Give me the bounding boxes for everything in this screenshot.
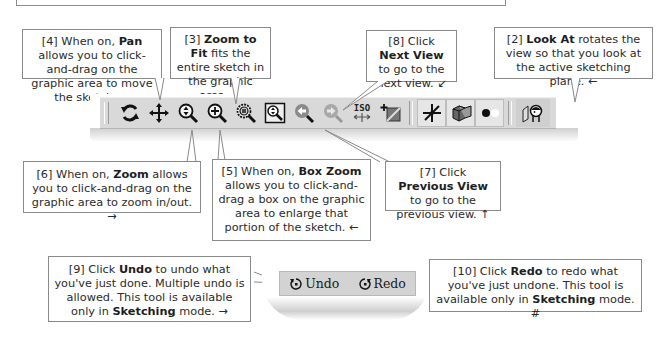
zoom-selection-button[interactable]: [260, 99, 289, 127]
previous-view-button[interactable]: [289, 99, 318, 127]
callout-keyword: Previous View: [398, 180, 488, 193]
callout-next-view: [8] Click Next View to go to the next vi…: [366, 30, 457, 82]
callout-keyword: Undo: [119, 263, 152, 276]
pan-button[interactable]: [144, 99, 173, 127]
arrow-right-icon: →: [107, 210, 116, 223]
callout-keyword: Look At: [526, 33, 574, 46]
callout-number: [4]: [42, 35, 58, 48]
arrow-left-icon: ←: [588, 75, 597, 88]
next-view-icon: [322, 102, 344, 124]
toolbar-grip[interactable]: [104, 102, 109, 124]
callout-number: [5]: [222, 165, 238, 178]
arrow-sw-icon: ↙: [437, 77, 446, 90]
sketch-axes-icon: [421, 102, 443, 124]
callout-text: When on,: [58, 35, 119, 48]
rotate-button[interactable]: [115, 99, 144, 127]
new-sketch-plane-icon: [380, 102, 402, 124]
callout-number: [2]: [507, 33, 527, 46]
callout-zoom: [6] When on, Zoom allows you to click-an…: [23, 161, 201, 213]
iso-view-icon: ISO: [350, 102, 374, 124]
zoom-to-fit-button[interactable]: [231, 99, 260, 127]
rotate-icon: [119, 102, 141, 124]
toolbar-strip: ISO: [100, 97, 556, 129]
undo-icon: [289, 277, 303, 291]
callout-text: to go to the next view.: [376, 63, 444, 90]
top-frame-border: [16, 0, 506, 6]
toolbar-separator: [508, 101, 512, 125]
arrow-up-icon: ↑: [480, 208, 489, 221]
undo-label: Undo: [305, 276, 339, 291]
toolbar-shadow: [90, 128, 578, 142]
callout-look-at: [2] Look At rotates the view so that you…: [494, 27, 653, 79]
points-toggle-button[interactable]: [475, 99, 504, 127]
sketch-view-button[interactable]: [417, 99, 446, 127]
redo-label: Redo: [374, 276, 406, 291]
callout-number: [7] Click: [420, 166, 467, 179]
look-at-icon: [521, 102, 545, 124]
iso-view-button[interactable]: ISO: [347, 99, 376, 127]
zoom-to-fit-icon: [235, 102, 257, 124]
svg-text:ISO: ISO: [353, 103, 370, 113]
previous-view-icon: [293, 102, 315, 124]
callout-text: When on,: [52, 168, 113, 181]
new-sketch-button[interactable]: [376, 99, 405, 127]
callout-number: [6]: [36, 168, 52, 181]
callout-number: [3]: [184, 33, 204, 46]
toolbar-separator: [409, 101, 413, 125]
callout-text: mode.: [176, 305, 219, 318]
redo-button[interactable]: Redo: [358, 276, 406, 291]
zoom-in-plus-icon: [206, 102, 228, 124]
callout-redo: [10] Click Redo to redo what you've just…: [429, 259, 642, 312]
next-view-button[interactable]: [318, 99, 347, 127]
callout-box-zoom: [5] When on, Box Zoom allows you to clic…: [212, 159, 371, 241]
callout-number: [8] Click: [388, 35, 435, 48]
callout-keyword: Sketching: [532, 293, 595, 306]
zoom-button[interactable]: [173, 99, 202, 127]
hash-mark-icon: #: [531, 307, 540, 320]
box-zoom-button[interactable]: [202, 99, 231, 127]
callout-keyword: Pan: [119, 35, 143, 48]
undo-button[interactable]: Undo: [289, 276, 339, 291]
arrow-right-icon: →: [218, 305, 227, 318]
callout-pan: [4] When on, Pan allows you to click-and…: [22, 29, 162, 79]
look-at-button[interactable]: [516, 99, 550, 127]
callout-keyword: Sketching: [112, 305, 175, 318]
callout-keyword: Box Zoom: [298, 165, 361, 178]
callout-undo: [9] Click Undo to undo what you've just …: [48, 256, 251, 322]
callout-number: [9] Click: [69, 263, 119, 276]
callout-text: to go to the previous view.: [396, 194, 480, 221]
callout-text: allows you to click-and-drag a box on th…: [218, 179, 364, 234]
undo-redo-toolbar: Undo Redo: [279, 271, 416, 296]
arrow-left-icon: ←: [349, 221, 358, 234]
callout-text: mode.: [595, 293, 634, 306]
callout-previous-view: [7] Click Previous View to go to the pre…: [385, 161, 501, 211]
solid-cube-icon: [450, 102, 472, 124]
callout-keyword: Zoom: [113, 168, 149, 181]
callout-keyword: Redo: [510, 265, 542, 278]
callout-zoom-to-fit: [3] Zoom to Fit fits the entire sketch i…: [170, 27, 271, 79]
redo-icon: [358, 277, 372, 291]
callout-keyword: Next View: [379, 49, 443, 62]
view-toolbar: ISO: [90, 94, 578, 136]
callout-text: When on,: [238, 165, 299, 178]
pan-arrows-icon: [148, 102, 170, 124]
points-dot-icon: [478, 102, 502, 124]
callout-number: [10] Click: [453, 265, 510, 278]
zoom-selection-box-icon: [264, 102, 286, 124]
zoom-magnifier-icon: [177, 102, 199, 124]
display-style-button[interactable]: [446, 99, 475, 127]
